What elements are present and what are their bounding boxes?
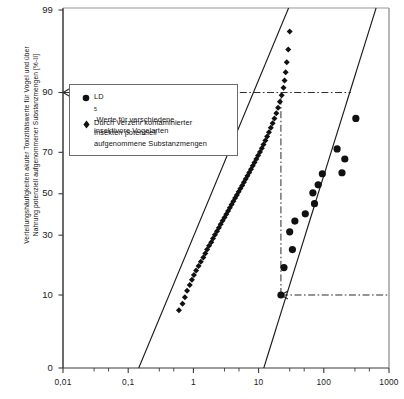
data-point-circle bbox=[334, 145, 341, 152]
filled-circle-marker bbox=[78, 92, 94, 102]
data-point-circle bbox=[286, 228, 293, 235]
y-axis-tick-label: 70 bbox=[27, 146, 53, 157]
y-axis-tick-label: 0 bbox=[27, 362, 53, 373]
data-point-diamond bbox=[176, 307, 182, 313]
data-point-circle bbox=[277, 291, 284, 298]
series-1-markers bbox=[277, 115, 359, 299]
data-point-circle bbox=[280, 264, 287, 271]
data-point-circle bbox=[309, 189, 316, 196]
scatter-plot-canvas bbox=[0, 0, 404, 399]
data-point-circle bbox=[315, 181, 322, 188]
data-point-diamond bbox=[182, 294, 188, 300]
data-point-circle bbox=[302, 210, 309, 217]
legend-insects-line1: Durch Verzehr kontaminierter bbox=[94, 118, 207, 128]
data-point-circle bbox=[291, 217, 298, 224]
data-point-diamond bbox=[282, 78, 288, 84]
data-point-diamond bbox=[273, 110, 279, 116]
chart-legend: LD5-Werte für verschiedene insektivore V… bbox=[69, 84, 238, 156]
data-point-circle bbox=[341, 155, 348, 162]
data-point-diamond bbox=[285, 47, 291, 53]
x-axis-tick-label: 1000 bbox=[366, 377, 404, 387]
data-point-diamond bbox=[279, 92, 285, 98]
data-point-diamond bbox=[187, 282, 193, 288]
y-axis-tick-label: 99 bbox=[27, 4, 53, 15]
fit-line-series-0 bbox=[139, 8, 289, 368]
data-point-diamond bbox=[184, 288, 190, 294]
legend-ld50-pre: LD bbox=[94, 92, 174, 102]
data-point-diamond bbox=[277, 99, 283, 105]
data-point-diamond bbox=[284, 59, 290, 65]
y-axis-tick-label: 10 bbox=[27, 289, 53, 300]
legend-insects-line3: aufgenommene Substanzmengen bbox=[94, 139, 207, 149]
x-axis-tick-label: 10 bbox=[236, 377, 282, 387]
series-0-markers bbox=[176, 29, 293, 314]
data-point-circle bbox=[289, 246, 296, 253]
x-axis-tick-label: 100 bbox=[301, 377, 347, 387]
data-point-diamond bbox=[179, 301, 185, 307]
data-point-circle bbox=[311, 200, 318, 207]
legend-insects-line2: Insekten potenziell bbox=[94, 128, 207, 138]
data-point-circle bbox=[352, 115, 359, 122]
data-point-diamond bbox=[275, 105, 281, 111]
x-axis-tick-label: 0,01 bbox=[40, 377, 86, 387]
data-point-circle bbox=[319, 170, 326, 177]
x-axis-tick-label: 1 bbox=[170, 377, 216, 387]
y-axis-tick-label: 30 bbox=[27, 229, 53, 240]
legend-item-insects-text: Durch Verzehr kontaminierter Insekten po… bbox=[94, 118, 207, 149]
chart-figure: Verteilungshäufigkeiten akuter Toxizität… bbox=[0, 0, 404, 399]
y-axis-tick-label: 50 bbox=[27, 187, 53, 198]
data-point-diamond bbox=[283, 69, 289, 75]
legend-item-insects: Durch Verzehr kontaminierter Insekten po… bbox=[78, 118, 207, 149]
data-point-diamond bbox=[281, 85, 287, 91]
legend-ld50-subscript: 5 bbox=[94, 107, 97, 113]
data-point-diamond bbox=[287, 29, 293, 35]
y-axis-tick-label: 90 bbox=[27, 86, 53, 97]
fit-line-series-1 bbox=[264, 8, 376, 368]
x-axis-tick-label: 0,1 bbox=[105, 377, 151, 387]
data-point-diamond bbox=[271, 115, 277, 121]
filled-diamond-marker bbox=[78, 118, 94, 129]
data-point-circle bbox=[338, 169, 345, 176]
